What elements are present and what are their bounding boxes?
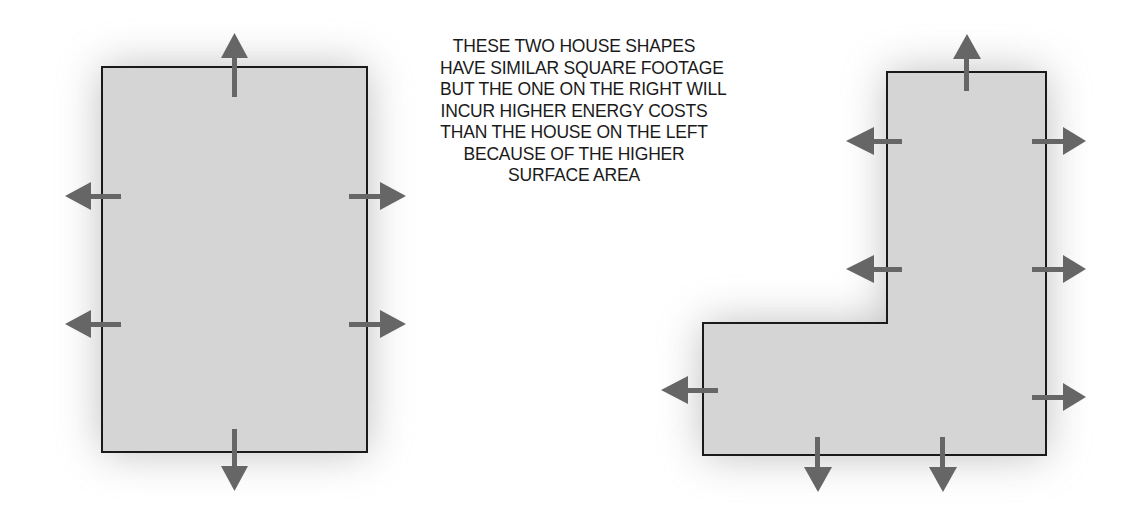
caption-line: HAVE SIMILAR SQUARE FOOTAGE [440, 58, 708, 80]
caption-line: THAN THE HOUSE ON THE LEFT [440, 122, 708, 144]
caption-line: SURFACE AREA [440, 165, 708, 187]
caption-text: THESE TWO HOUSE SHAPES HAVE SIMILAR SQUA… [440, 36, 708, 187]
caption-line: BUT THE ONE ON THE RIGHT WILL [440, 79, 708, 101]
caption-line: BECAUSE OF THE HIGHER [440, 144, 708, 166]
right-house-shape [703, 72, 1046, 455]
caption-line: INCUR HIGHER ENERGY COSTS [440, 101, 708, 123]
left-house-shape [102, 67, 367, 452]
caption-line: THESE TWO HOUSE SHAPES [440, 36, 708, 58]
